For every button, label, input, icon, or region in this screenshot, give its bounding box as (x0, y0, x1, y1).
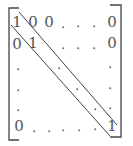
ellipsis-dot (17, 68, 19, 70)
entry-r6-last: 1 (107, 119, 117, 134)
ellipsis-dot (58, 67, 60, 69)
diagonal-line-lower (11, 25, 110, 136)
entry-r2-c2: 1 (28, 36, 38, 51)
ellipsis-dot (78, 129, 80, 131)
entry-r2-c1: 0 (12, 37, 22, 52)
ellipsis-dot (62, 47, 64, 49)
ellipsis-dot (77, 25, 79, 27)
ellipsis-dot (93, 25, 95, 27)
ellipsis-dot (76, 88, 78, 90)
ellipsis-dot (109, 66, 111, 68)
entry-r1-last: 0 (107, 15, 117, 30)
ellipsis-dot (77, 47, 79, 49)
entry-r1-c3: 0 (44, 15, 54, 30)
entry-r1-c1: 1 (12, 15, 22, 30)
entry-r2-last: 0 (107, 36, 117, 51)
identity-matrix-figure: 1 0 0 0 0 1 0 0 1 (0, 0, 133, 146)
ellipsis-dot (62, 129, 64, 131)
ellipsis-dot (62, 26, 64, 28)
entry-r6-c1: 0 (14, 119, 24, 134)
ellipsis-dot (109, 87, 111, 89)
ellipsis-dot (109, 107, 111, 109)
ellipsis-dot (48, 130, 50, 132)
entry-r1-c2: 0 (28, 15, 38, 30)
ellipsis-dot (93, 47, 95, 49)
ellipsis-dot (33, 130, 35, 132)
ellipsis-dot (17, 109, 19, 111)
ellipsis-dot (94, 128, 96, 130)
ellipsis-dot (94, 108, 96, 110)
ellipsis-dot (17, 89, 19, 91)
